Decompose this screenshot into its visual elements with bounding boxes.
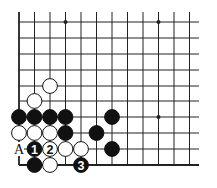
white-stone: [43, 126, 58, 141]
black-stone: [105, 110, 120, 125]
stone-icon: [43, 79, 58, 94]
black-stone: [58, 110, 73, 125]
stone-icon: [43, 158, 58, 173]
star-point-icon: [157, 115, 161, 119]
star-point-icon: [157, 20, 161, 24]
black-stone: [58, 126, 73, 141]
move-number-label: 2: [47, 143, 54, 157]
black-stone: [12, 110, 27, 125]
black-stone: [27, 158, 42, 173]
stone-icon: [12, 110, 27, 125]
move-number-label: 3: [78, 159, 85, 173]
point-label-a: A: [14, 142, 25, 157]
white-stone: [43, 158, 58, 173]
black-stone: [105, 142, 120, 157]
go-board-diagram: A 123: [0, 0, 217, 188]
stone-icon: [105, 110, 120, 125]
stone-icon: [43, 110, 58, 125]
stone-icon: [43, 126, 58, 141]
black-stone-3: 3: [74, 158, 89, 173]
stone-icon: [58, 126, 73, 141]
stone-icon: [27, 126, 42, 141]
white-stone: [43, 79, 58, 94]
stone-icon: [89, 126, 104, 141]
white-stone: [58, 142, 73, 157]
stone-icon: [27, 110, 42, 125]
white-stone: [12, 126, 27, 141]
point-labels: A: [14, 142, 25, 157]
star-point-icon: [64, 20, 68, 24]
white-stone: [27, 94, 42, 109]
black-stone: [43, 110, 58, 125]
black-stone: [89, 126, 104, 141]
move-number-label: 1: [31, 143, 38, 157]
stone-icon: [58, 142, 73, 157]
stone-icon: [105, 142, 120, 157]
stone-icon: [27, 94, 42, 109]
white-stone: [74, 142, 89, 157]
black-stone-1: 1: [27, 142, 42, 157]
stone-icon: [12, 126, 27, 141]
white-stone: [27, 126, 42, 141]
black-stone: [27, 110, 42, 125]
white-stone-2: 2: [43, 142, 58, 157]
stone-icon: [58, 110, 73, 125]
stone-icon: [27, 158, 42, 173]
stone-icon: [74, 142, 89, 157]
